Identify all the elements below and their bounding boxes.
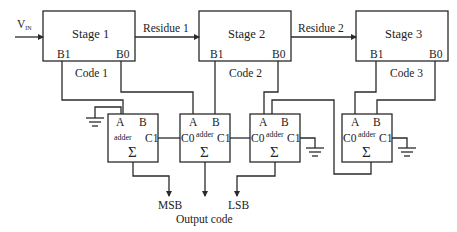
ground-icon (398, 148, 416, 156)
stage-3-port-b0: B0 (429, 49, 442, 61)
stage3-b1-wire (355, 61, 376, 114)
residue-2-label: Residue 2 (298, 23, 344, 35)
stage-3-port-b1: B1 (370, 49, 383, 61)
vin-label: VIN (17, 19, 32, 31)
adder-1-in-b: B (139, 117, 147, 129)
adder4-c1-ground-wire (392, 138, 407, 148)
adder-4-label: adder (358, 131, 376, 139)
adder-1-in-a: A (116, 117, 124, 129)
adder-4-in-b: B (373, 117, 381, 129)
adder-2-carry-out: C1 (217, 133, 230, 145)
adder-1-label: adder (114, 134, 132, 142)
ground-icon (86, 118, 104, 126)
adder-1-carry-out: C1 (145, 133, 158, 145)
stage-1-port-b1: B1 (57, 49, 70, 61)
stage-2-port-b1: B1 (210, 49, 223, 61)
adder-2-label: adder (196, 131, 214, 139)
stage-1-code-label: Code 1 (75, 68, 108, 80)
msb-label: MSB (158, 200, 182, 212)
adder-3-sum: Σ (270, 145, 279, 160)
adder-4-carry-in: C0 (343, 133, 356, 145)
lsb-label: LSB (228, 200, 249, 212)
adder-4-sum: Σ (362, 145, 371, 160)
adder-4-in-a: A (351, 117, 359, 129)
stage1-b0-wire (121, 61, 193, 114)
residue-1-label: Residue 1 (143, 23, 189, 35)
adder-3-carry-out: C1 (287, 133, 300, 145)
adder-2-in-a: A (189, 117, 197, 129)
adder-2-in-b: B (212, 117, 220, 129)
stage-1-title: Stage 1 (72, 28, 109, 41)
output-code-caption: Output code (176, 214, 233, 226)
adder-3-in-b: B (281, 117, 289, 129)
stage-2-code-label: Code 2 (229, 68, 262, 80)
adder-3-carry-in: C0 (251, 133, 264, 145)
adder-3-in-a: A (259, 117, 267, 129)
ground-icon (306, 148, 324, 156)
stage-2-title: Stage 2 (228, 28, 265, 41)
adder-2-sum: Σ (200, 145, 209, 160)
adder-4-carry-out: C1 (379, 133, 392, 145)
stage-2-port-b0: B0 (272, 49, 285, 61)
stage-1-port-b0: B0 (116, 49, 129, 61)
adder3-c1-ground-wire (300, 138, 315, 148)
stage2-b0-wire (264, 61, 278, 114)
adder-3-label: adder (266, 131, 284, 139)
msb-output-arrow (133, 162, 169, 196)
stage-3-code-label: Code 3 (390, 68, 423, 80)
adder-1-sum: Σ (128, 145, 137, 160)
lsb-output-arrow (237, 162, 275, 196)
stage-3-title: Stage 3 (385, 28, 422, 41)
adder-2-carry-in: C0 (181, 133, 194, 145)
